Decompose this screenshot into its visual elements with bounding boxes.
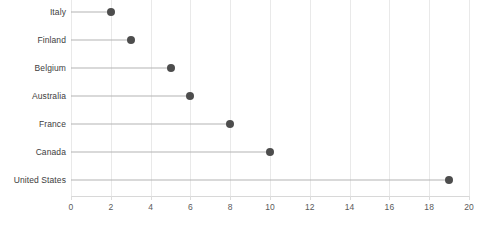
gridline xyxy=(310,0,311,196)
y-axis-category-label: Finland xyxy=(37,35,66,45)
gridline xyxy=(429,0,430,196)
x-axis-tick-mark xyxy=(151,196,152,200)
x-axis-tick-label: 16 xyxy=(385,202,395,212)
gridline xyxy=(389,0,390,196)
y-axis-category-label: Australia xyxy=(32,91,66,101)
x-axis-tick-label: 6 xyxy=(188,202,193,212)
x-axis-tick-mark xyxy=(310,196,311,200)
lollipop-stem xyxy=(71,180,449,181)
y-axis-category-label: Canada xyxy=(36,147,66,157)
y-axis-category-label: Belgium xyxy=(35,63,66,73)
lollipop-marker[interactable] xyxy=(226,120,234,128)
x-axis-tick-mark xyxy=(270,196,271,200)
x-axis-tick-mark xyxy=(389,196,390,200)
lollipop-chart: 02468101214161820 ItalyFinlandBelgiumAus… xyxy=(0,0,491,232)
gridline xyxy=(270,0,271,196)
lollipop-stem xyxy=(71,40,131,41)
lollipop-stem xyxy=(71,68,171,69)
lollipop-stem xyxy=(71,124,230,125)
lollipop-marker[interactable] xyxy=(167,64,175,72)
x-axis-tick-mark xyxy=(230,196,231,200)
lollipop-marker[interactable] xyxy=(127,36,135,44)
gridline xyxy=(350,0,351,196)
lollipop-marker[interactable] xyxy=(186,92,194,100)
x-axis-tick-label: 8 xyxy=(228,202,233,212)
x-axis-tick-mark xyxy=(469,196,470,200)
x-axis-tick-mark xyxy=(71,196,72,200)
x-axis-tick-label: 14 xyxy=(345,202,355,212)
gridline xyxy=(469,0,470,196)
x-axis-tick-label: 10 xyxy=(265,202,275,212)
x-axis-tick-mark xyxy=(190,196,191,200)
gridline xyxy=(71,0,72,196)
x-axis-tick-label: 18 xyxy=(424,202,434,212)
x-axis-tick-label: 4 xyxy=(148,202,153,212)
gridline xyxy=(151,0,152,196)
y-axis-label-group: ItalyFinlandBelgiumAustraliaFranceCanada… xyxy=(0,0,66,196)
lollipop-stem xyxy=(71,152,270,153)
x-axis-tick-label: 2 xyxy=(108,202,113,212)
y-axis-category-label: Italy xyxy=(50,7,66,17)
lollipop-stem xyxy=(71,96,190,97)
lollipop-stem xyxy=(71,12,111,13)
gridline xyxy=(230,0,231,196)
x-axis-tick-mark xyxy=(350,196,351,200)
x-axis-tick-label: 0 xyxy=(69,202,74,212)
lollipop-marker[interactable] xyxy=(266,148,274,156)
lollipop-marker[interactable] xyxy=(445,176,453,184)
y-axis-category-label: United States xyxy=(14,175,66,185)
x-axis-tick-mark xyxy=(111,196,112,200)
plot-area xyxy=(71,0,469,196)
lollipop-marker[interactable] xyxy=(107,8,115,16)
x-axis-tick-mark xyxy=(429,196,430,200)
x-axis-tick-label: 20 xyxy=(464,202,474,212)
gridline xyxy=(111,0,112,196)
y-axis-category-label: France xyxy=(39,119,66,129)
x-axis-tick-label: 12 xyxy=(305,202,315,212)
